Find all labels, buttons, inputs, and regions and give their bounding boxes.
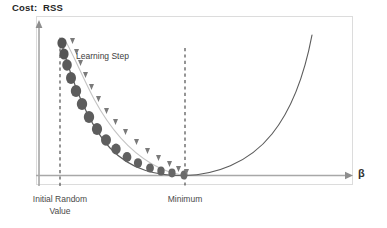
caption-minimum: Minimum bbox=[147, 193, 223, 205]
learning-step-marker bbox=[134, 158, 142, 168]
learning-step-marker bbox=[168, 169, 175, 178]
learning-step-marker bbox=[57, 37, 66, 48]
learning-step-marker bbox=[157, 167, 164, 176]
learning-step-marker bbox=[66, 72, 76, 84]
learning-step-marker bbox=[101, 134, 111, 145]
triangle-down-icon bbox=[70, 38, 75, 44]
cost-function-figure: Cost: RSS bbox=[0, 0, 387, 228]
learning-step-marker bbox=[123, 152, 132, 162]
triangle-down-icon bbox=[176, 166, 181, 172]
learning-step-marker bbox=[111, 144, 120, 155]
learning-step-marker bbox=[77, 98, 87, 110]
learning-step-marker bbox=[92, 123, 102, 135]
triangle-down-icon bbox=[156, 155, 161, 161]
caption-initial-random-value: Initial Random Value bbox=[12, 193, 108, 217]
annotation-learning-step: Learning Step bbox=[76, 51, 129, 61]
triangle-down-icon bbox=[134, 139, 139, 145]
learning-step-marker bbox=[59, 48, 68, 59]
triangle-down-icon bbox=[104, 108, 109, 114]
triangle-down-icon bbox=[89, 84, 94, 90]
x-axis-label-beta: β bbox=[358, 167, 365, 179]
triangle-down-icon bbox=[113, 119, 118, 125]
learning-step-marker bbox=[84, 111, 94, 123]
arrow-right-icon bbox=[345, 172, 353, 179]
triangle-down-icon bbox=[145, 148, 150, 154]
triangle-down-icon bbox=[96, 96, 101, 102]
learning-step-marker bbox=[62, 59, 72, 71]
learning-step-marker bbox=[146, 163, 154, 172]
learning-step-marker bbox=[71, 85, 81, 97]
triangle-down-icon bbox=[123, 129, 128, 135]
triangle-down-icon bbox=[167, 161, 172, 167]
